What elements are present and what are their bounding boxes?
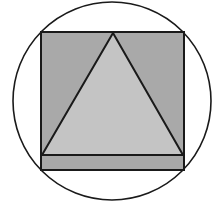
diagram-canvas bbox=[0, 0, 217, 208]
geometry-diagram bbox=[0, 0, 217, 208]
